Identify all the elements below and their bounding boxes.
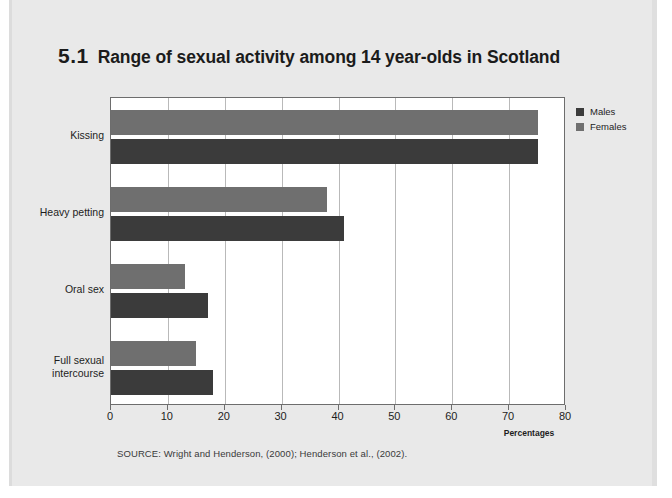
chart-legend: MalesFemales — [576, 104, 626, 134]
x-tick-label-10: 10 — [147, 410, 187, 422]
category-label-1-line-0: Heavy petting — [4, 206, 104, 219]
figure-title: Range of sexual activity among 14 year-o… — [98, 47, 560, 68]
figure-page: 5.1 Range of sexual activity among 14 ye… — [0, 0, 672, 498]
figure-number: 5.1 — [58, 44, 89, 68]
category-label-0-line-0: Kissing — [4, 129, 104, 142]
x-tick-label-40: 40 — [318, 410, 358, 422]
x-tick-label-30: 30 — [261, 410, 301, 422]
category-label-3-line-1: intercourse — [4, 367, 104, 380]
x-axis-title: Percentages — [489, 428, 569, 438]
bar-females-0 — [111, 110, 538, 135]
x-tick-label-20: 20 — [204, 410, 244, 422]
legend-label-males: Males — [590, 106, 615, 117]
x-tick-label-60: 60 — [431, 410, 471, 422]
bar-males-3 — [111, 370, 213, 395]
x-tick-label-70: 70 — [488, 410, 528, 422]
legend-item-females[interactable]: Females — [576, 119, 626, 134]
category-label-2: Oral sex — [4, 283, 104, 296]
plot-area — [110, 97, 565, 405]
category-axis-labels: KissingHeavy pettingOral sexFull sexuali… — [0, 97, 104, 405]
category-label-1: Heavy petting — [4, 206, 104, 219]
legend-swatch-females — [576, 123, 584, 131]
x-tick-label-80: 80 — [545, 410, 585, 422]
source-note: SOURCE: Wright and Henderson, (2000); He… — [117, 448, 407, 459]
bar-males-1 — [111, 216, 344, 241]
x-tick-label-50: 50 — [374, 410, 414, 422]
paper-edge-right — [652, 0, 657, 486]
category-label-0: Kissing — [4, 129, 104, 142]
legend-label-females: Females — [590, 121, 626, 132]
legend-swatch-males — [576, 108, 584, 116]
x-tick-label-0: 0 — [90, 410, 130, 422]
bar-females-3 — [111, 341, 196, 366]
category-label-2-line-0: Oral sex — [4, 283, 104, 296]
bar-females-1 — [111, 187, 327, 212]
bar-males-0 — [111, 139, 538, 164]
category-label-3: Full sexualintercourse — [4, 354, 104, 380]
figure-title-row: 5.1 Range of sexual activity among 14 ye… — [58, 44, 560, 68]
category-label-3-line-0: Full sexual — [4, 354, 104, 367]
legend-item-males[interactable]: Males — [576, 104, 626, 119]
bar-males-2 — [111, 293, 208, 318]
bar-females-2 — [111, 264, 185, 289]
